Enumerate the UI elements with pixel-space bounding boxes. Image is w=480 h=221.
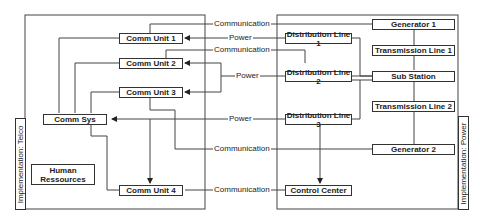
edge-label-communication-2: Communication (213, 45, 271, 54)
container-label-power: Implementation: Power (458, 116, 469, 210)
node-distribution-line-1[interactable]: Distribution Line 1 (285, 33, 352, 44)
edge-label-power-1: Power (228, 33, 253, 42)
edge-label-communication-3: Communication (213, 144, 271, 153)
node-comm-sys[interactable]: Comm Sys (43, 114, 107, 125)
node-comm-unit-4[interactable]: Comm Unit 4 (119, 185, 183, 196)
node-comm-unit-2[interactable]: Comm Unit 2 (119, 58, 183, 69)
node-distribution-line-2[interactable]: Distribution Line 2 (285, 71, 352, 82)
container-label-telco: Implementation: Telco (15, 118, 26, 210)
node-sub-station[interactable]: Sub Station (372, 71, 455, 82)
node-human-ressources[interactable]: Human Ressources (31, 164, 95, 185)
node-generator-1[interactable]: Generator 1 (372, 19, 455, 30)
node-control-center[interactable]: Control Center (285, 185, 352, 196)
node-generator-2[interactable]: Generator 2 (372, 144, 455, 155)
node-comm-unit-1[interactable]: Comm Unit 1 (119, 33, 183, 44)
node-comm-unit-3[interactable]: Comm Unit 3 (119, 87, 183, 98)
node-distribution-line-3[interactable]: Distribution Line 3 (285, 114, 352, 125)
node-transmission-line-2[interactable]: Transmission Line 2 (372, 101, 455, 112)
node-transmission-line-1[interactable]: Transmission Line 1 (372, 45, 455, 56)
edge-label-power-2: Power (235, 71, 260, 80)
edge-label-communication-4: Communication (213, 185, 271, 194)
edge-label-communication-1: Communication (213, 19, 271, 28)
edge-label-power-3: Power (228, 114, 253, 123)
